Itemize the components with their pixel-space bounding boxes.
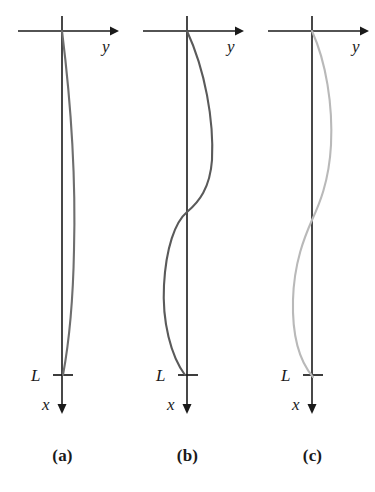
y-axis-arrowhead-c bbox=[360, 27, 369, 36]
length-label-b: L bbox=[155, 366, 165, 385]
x-axis-arrowhead-c bbox=[308, 404, 317, 414]
mode-shape-curve-b bbox=[164, 31, 213, 375]
x-axis-arrowhead-a bbox=[58, 404, 67, 414]
y-axis-label-a: y bbox=[100, 37, 110, 56]
x-axis-label-b: x bbox=[166, 395, 175, 414]
y-axis-arrowhead-a bbox=[110, 27, 119, 36]
panel-a: y x L (a) bbox=[0, 0, 125, 492]
length-label-a: L bbox=[30, 366, 40, 385]
x-axis-label-a: x bbox=[41, 395, 50, 414]
panel-c: y x L (c) bbox=[250, 0, 375, 492]
buckling-modes-figure: y x L (a) y x L (b) bbox=[0, 0, 375, 492]
panel-b-diagram: y x L bbox=[125, 0, 250, 492]
length-label-c: L bbox=[280, 366, 290, 385]
panel-b: y x L (b) bbox=[125, 0, 250, 492]
y-axis-label-c: y bbox=[350, 37, 360, 56]
x-axis-label-c: x bbox=[291, 395, 300, 414]
panel-caption-c: (c) bbox=[250, 446, 375, 466]
mode-shape-curve-a bbox=[62, 31, 74, 375]
y-axis-arrowhead-b bbox=[235, 27, 244, 36]
panel-c-diagram: y x L bbox=[250, 0, 375, 492]
panel-caption-a: (a) bbox=[0, 446, 125, 466]
panel-a-diagram: y x L bbox=[0, 0, 125, 492]
x-axis-arrowhead-b bbox=[183, 404, 192, 414]
y-axis-label-b: y bbox=[225, 37, 235, 56]
panel-caption-b: (b) bbox=[125, 446, 250, 466]
